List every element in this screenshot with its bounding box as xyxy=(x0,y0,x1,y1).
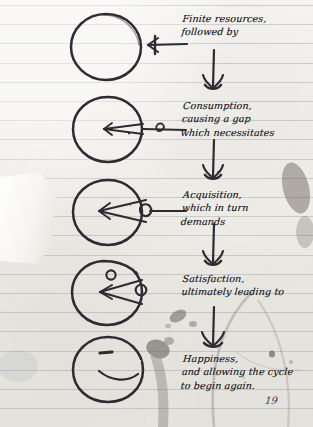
eye-dash xyxy=(100,352,112,353)
connector-arrow-left-1 xyxy=(148,36,187,54)
step-text-satisfaction: Satisfaction, ultimately leading to xyxy=(181,272,286,299)
connector-arrow-down-1 xyxy=(203,50,223,89)
figure-pacman-with-pellet xyxy=(72,261,146,325)
connector-arrow-left-2 xyxy=(143,124,186,131)
figure-smiling-face xyxy=(73,337,143,402)
page-number: 19 xyxy=(264,395,278,406)
notebook-page: Finite resources, followed by Consumptio… xyxy=(0,0,313,427)
step-text-happiness: Happiness, and allowing the cycle to beg… xyxy=(180,352,295,392)
figure-circle-thin-wedge xyxy=(73,97,143,162)
step-text-acquisition: Acquisition, which in turn demands xyxy=(180,188,250,228)
smile xyxy=(99,371,138,380)
connector-arrow-down-3 xyxy=(203,224,223,265)
figure-full-circle xyxy=(71,14,141,80)
figure-circle-wide-wedge xyxy=(73,180,146,245)
step-text-consumption: Consumption, causing a gap which necessi… xyxy=(180,99,277,139)
step-text-finite-resources: Finite resources, followed by xyxy=(181,12,267,39)
connector-arrow-down-2 xyxy=(203,140,223,179)
connector-arrow-left-3 xyxy=(140,204,186,216)
connector-arrow-down-4 xyxy=(202,307,224,347)
